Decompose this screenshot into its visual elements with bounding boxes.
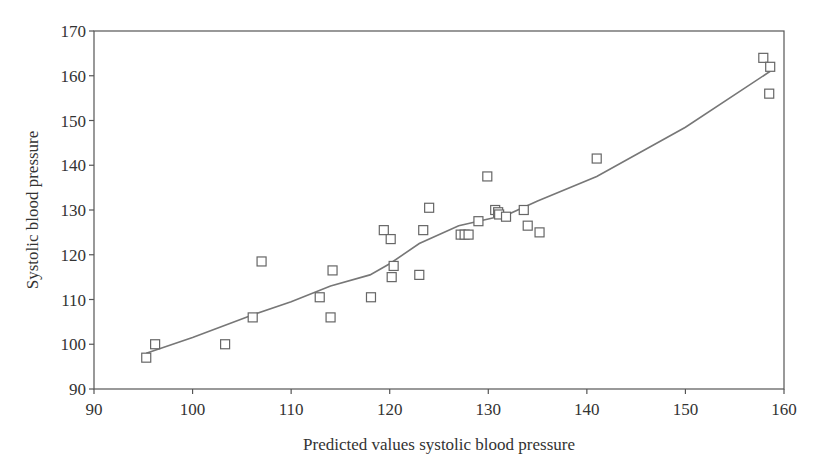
x-tick-label: 110 [279,400,304,419]
data-point-square [483,172,492,181]
x-axis: 90100110120130140150160 [86,389,797,419]
data-point-square [248,313,257,322]
x-tick-label: 120 [377,400,403,419]
data-point-square [474,217,483,226]
y-tick-label: 110 [61,291,86,310]
y-tick-label: 170 [61,22,87,41]
y-tick-label: 120 [61,246,87,265]
x-axis-title: Predicted values systolic blood pressure [303,435,575,454]
y-tick-label: 160 [61,67,87,86]
data-point-square [759,53,768,62]
x-tick-label: 150 [673,400,699,419]
data-point-square [387,273,396,282]
data-point-square [366,293,375,302]
data-point-square [142,353,151,362]
data-point-square [419,226,428,235]
data-point-square [328,266,337,275]
data-point-square [257,257,266,266]
data-point-square [151,340,160,349]
x-tick-label: 160 [771,400,797,419]
x-tick-label: 100 [180,400,206,419]
x-tick-label: 140 [574,400,600,419]
data-point-square [315,293,324,302]
data-point-square [519,206,528,215]
data-point-square [386,235,395,244]
data-point-square [326,313,335,322]
scatter-chart: 90100110120130140150160170 9010011012013… [0,0,815,471]
y-tick-label: 150 [61,112,87,131]
data-point-square [389,261,398,270]
y-tick-label: 90 [69,380,86,399]
data-point-square [592,154,601,163]
y-axis-title: Systolic blood pressure [23,131,42,290]
data-point-square [523,221,532,230]
data-point-square [765,89,774,98]
data-point-square [464,230,473,239]
y-tick-label: 100 [61,335,87,354]
data-point-square [221,340,230,349]
x-tick-label: 130 [476,400,502,419]
data-point-square [535,228,544,237]
y-tick-label: 140 [61,156,87,175]
y-tick-label: 130 [61,201,87,220]
data-point-square [766,62,775,71]
x-tick-label: 90 [86,400,103,419]
data-point-square [425,203,434,212]
data-point-square [379,226,388,235]
data-point-square [502,212,511,221]
data-point-square [415,270,424,279]
y-axis: 90100110120130140150160170 [61,22,95,399]
